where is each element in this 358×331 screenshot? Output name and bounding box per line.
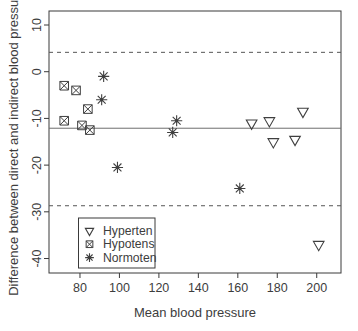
data-point-hypotens: [86, 126, 95, 135]
y-tick-label: -30: [30, 203, 44, 221]
y-tick-label: 10: [30, 18, 44, 32]
y-tick-label: -20: [30, 156, 44, 174]
x-tick-label: 200: [306, 281, 327, 295]
chart-layer: 80100120140160180200100-10-20-30-40Hyper…: [30, 11, 341, 295]
x-tick-label: 160: [227, 281, 248, 295]
data-point-hyperten: [298, 108, 309, 117]
asterisk-marker-center: [238, 187, 241, 190]
asterisk-marker-center: [175, 119, 178, 122]
y-axis-title: Difference between direct and indirect b…: [6, 0, 21, 296]
asterisk-marker-center: [100, 98, 103, 101]
x-tick-label: 180: [267, 281, 288, 295]
legend-label: Hypotens: [103, 237, 155, 251]
asterisk-marker-center: [171, 131, 174, 134]
legend-label: Normoten: [103, 251, 157, 265]
x-tick-label: 140: [188, 281, 209, 295]
bland-altman-scatter-plot: 80100120140160180200100-10-20-30-40Hyper…: [0, 0, 358, 331]
data-point-hyperten: [313, 241, 324, 250]
data-point-hyperten: [268, 139, 279, 148]
y-tick-label: -40: [30, 249, 44, 267]
data-point-hypotens: [60, 81, 69, 90]
x-tick-label: 80: [73, 281, 87, 295]
legend-label: Hyperten: [103, 224, 152, 238]
asterisk-marker-center: [116, 166, 119, 169]
data-point-hypotens: [84, 105, 93, 114]
x-axis-title: Mean blood pressure: [134, 305, 256, 320]
x-tick-label: 100: [109, 281, 130, 295]
data-point-hypotens: [72, 86, 81, 95]
data-point-hyperten: [264, 118, 275, 127]
data-point-hypotens: [60, 116, 69, 125]
y-tick-label: -10: [30, 109, 44, 127]
asterisk-marker-center: [88, 256, 90, 258]
asterisk-marker-center: [102, 75, 105, 78]
data-point-hyperten: [290, 136, 301, 145]
y-tick-label: 0: [30, 68, 44, 75]
x-tick-label: 120: [148, 281, 169, 295]
